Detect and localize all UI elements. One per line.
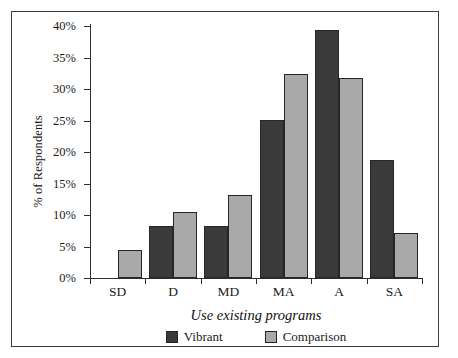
x-axis-tick-label: A	[334, 284, 344, 300]
y-axis-tick: 25%	[84, 121, 90, 122]
legend-item-comparison: Comparison	[265, 329, 347, 345]
x-axis-tick-label: D	[168, 284, 178, 300]
bar-comparison-d	[173, 212, 197, 278]
bar-group	[145, 212, 200, 278]
bar-chart: % of Respondents 0%5%10%15%20%25%30%35%4…	[12, 12, 440, 348]
x-axis-tick	[145, 278, 146, 284]
light-square-swatch	[265, 331, 277, 343]
x-axis-tick	[311, 278, 312, 284]
x-axis-tick	[256, 278, 257, 284]
legend-label: Comparison	[283, 329, 347, 345]
y-axis-tick: 40%	[84, 26, 90, 27]
legend-label: Vibrant	[184, 329, 223, 345]
figure-frame: % of Respondents 0%5%10%15%20%25%30%35%4…	[11, 11, 439, 347]
bar-comparison-md	[228, 195, 252, 278]
y-axis-tick: 30%	[84, 89, 90, 90]
bar-vibrant-md	[204, 226, 228, 278]
y-axis-tick-label: 15%	[53, 176, 76, 191]
y-axis-tick-label: 0%	[59, 271, 76, 286]
y-axis-tick: 15%	[84, 184, 90, 185]
bar-vibrant-sa	[370, 160, 394, 278]
bar-group	[311, 30, 366, 278]
bar-vibrant-d	[149, 226, 173, 278]
y-axis-tick-label: 10%	[53, 208, 76, 223]
x-axis-tick-label: MA	[273, 284, 295, 300]
y-axis-tick-label: 20%	[53, 145, 76, 160]
bar-comparison-sa	[394, 233, 418, 278]
bar-group	[367, 160, 422, 278]
y-axis-tick: 35%	[84, 58, 90, 59]
y-axis-tick-label: 5%	[59, 239, 76, 254]
dark-square-swatch	[166, 331, 178, 343]
bar-vibrant-ma	[260, 120, 284, 278]
y-axis-tick-label: 30%	[53, 82, 76, 97]
bar-vibrant-a	[315, 30, 339, 278]
chart-legend: VibrantComparison	[90, 329, 422, 345]
x-axis-tick	[367, 278, 368, 284]
legend-item-vibrant: Vibrant	[166, 329, 223, 345]
x-axis-tick	[90, 278, 91, 284]
x-axis-tick-label: MD	[217, 284, 239, 300]
bar-comparison-sd	[118, 250, 142, 278]
y-axis-tick-label: 35%	[53, 50, 76, 65]
y-axis-title: % of Respondents	[31, 87, 46, 237]
bar-group	[90, 250, 145, 278]
y-axis-tick: 10%	[84, 215, 90, 216]
x-axis-line	[84, 278, 422, 279]
x-axis-tick-label: SD	[109, 284, 126, 300]
x-axis-tick	[422, 278, 423, 284]
y-axis-tick: 20%	[84, 152, 90, 153]
x-axis-tick-label: SA	[386, 284, 403, 300]
y-axis-tick-label: 25%	[53, 113, 76, 128]
y-axis-tick: 5%	[84, 247, 90, 248]
x-axis-title: Use existing programs	[90, 307, 422, 324]
bar-comparison-a	[339, 78, 363, 278]
bar-group	[256, 74, 311, 278]
x-axis-tick	[201, 278, 202, 284]
plot-area: 0%5%10%15%20%25%30%35%40%	[90, 26, 422, 278]
y-axis-tick-label: 40%	[53, 19, 76, 34]
bar-comparison-ma	[284, 74, 308, 278]
bar-group	[201, 195, 256, 278]
